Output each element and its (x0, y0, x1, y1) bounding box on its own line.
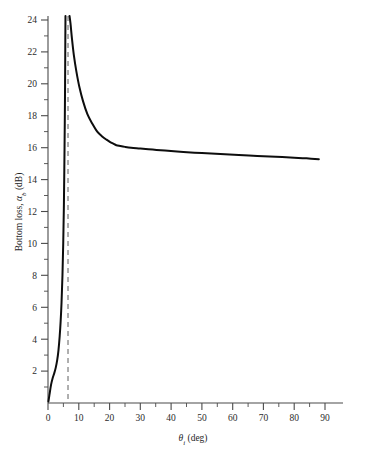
y-axis-title-main: Bottom loss, (14, 201, 24, 251)
y-tick-label: 6 (32, 303, 37, 313)
y-tick-label: 22 (28, 47, 38, 57)
x-tick-label: 10 (74, 413, 84, 423)
x-tick-label: 90 (320, 413, 330, 423)
x-tick-label: 40 (166, 413, 176, 423)
y-tick-label: 4 (32, 335, 37, 345)
chart-background (0, 0, 365, 452)
x-tick-label: 60 (228, 413, 238, 423)
chart-svg: 2 4 6 8 10 12 14 16 18 20 22 24 (0, 0, 365, 452)
y-axis-title-units: (dB) (14, 173, 25, 193)
bottom-loss-chart: 2 4 6 8 10 12 14 16 18 20 22 24 (0, 0, 365, 452)
y-tick-label: 2 (32, 366, 37, 376)
y-tick-label: 14 (28, 175, 38, 185)
y-tick-label: 16 (28, 143, 38, 153)
x-tick-label: 30 (136, 413, 146, 423)
y-tick-label: 10 (28, 239, 38, 249)
x-axis-title-units: (deg) (185, 433, 207, 444)
x-tick-label: 80 (289, 413, 299, 423)
y-tick-label: 18 (28, 111, 38, 121)
x-tick-label: 50 (197, 413, 207, 423)
x-tick-label: 0 (46, 413, 51, 423)
y-tick-label: 20 (28, 79, 38, 89)
x-tick-label: 70 (259, 413, 269, 423)
x-tick-label: 20 (105, 413, 115, 423)
y-tick-label: 8 (32, 271, 37, 281)
y-tick-label: 24 (28, 15, 38, 25)
y-tick-label: 12 (28, 207, 38, 217)
